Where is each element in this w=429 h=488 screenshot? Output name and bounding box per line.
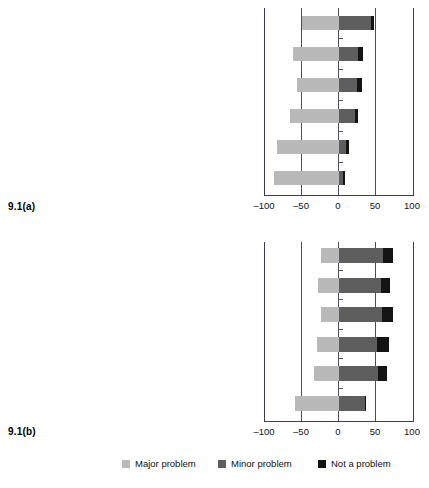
bar-segment-major <box>302 16 339 30</box>
square-swatch-icon <box>218 460 226 468</box>
bar-segment-major <box>318 278 339 293</box>
bar-segment-minor <box>339 248 383 263</box>
chart-panel-a: 9.1(a) –100–50050100 Insufficient sales/… <box>0 0 429 222</box>
category-tick-mark <box>338 131 343 132</box>
plot-area-b <box>264 242 414 421</box>
gridline-plus50-b <box>375 242 376 421</box>
x-tick-label: 50 <box>370 426 381 437</box>
x-tick-label: –50 <box>293 426 309 437</box>
bar-segment-none <box>357 78 362 92</box>
bar-row <box>265 140 413 154</box>
bar-row <box>265 307 413 322</box>
bar-segment-minor <box>339 47 358 61</box>
category-tick-mark <box>338 100 343 101</box>
category-tick-mark <box>338 329 343 330</box>
legend-label-none: Not a problem <box>331 458 391 469</box>
category-tick-mark <box>338 270 343 271</box>
bar-segment-minor <box>339 366 378 381</box>
bar-row <box>265 16 413 30</box>
bar-segment-none <box>355 109 359 123</box>
gridline-zero-a <box>338 8 339 195</box>
bar-segment-none <box>346 140 349 154</box>
bar-row <box>265 278 413 293</box>
x-tick-label: 100 <box>404 426 420 437</box>
bar-segment-minor <box>339 278 381 293</box>
bar-segment-major <box>274 171 339 185</box>
category-tick-mark <box>338 38 343 39</box>
bar-row <box>265 78 413 92</box>
bar-segment-minor <box>339 16 371 30</box>
bar-row <box>265 366 413 381</box>
category-tick-mark <box>338 162 343 163</box>
x-axis-line-a <box>264 195 414 196</box>
x-tick-label: 50 <box>370 200 381 211</box>
bar-segment-major <box>297 78 339 92</box>
bar-segment-none <box>365 396 366 411</box>
bar-segment-none <box>378 366 387 381</box>
bar-row <box>265 337 413 352</box>
bar-row <box>265 248 413 263</box>
x-tick-label: 0 <box>335 426 340 437</box>
gridline-minus50-a <box>301 8 302 195</box>
bar-segment-major <box>277 140 339 154</box>
panel-b-label: 9.1(b) <box>8 426 36 437</box>
bar-row <box>265 171 413 185</box>
category-tick-mark <box>338 358 343 359</box>
category-tick-mark <box>338 388 343 389</box>
bar-segment-major <box>317 337 339 352</box>
bar-segment-minor <box>339 109 355 123</box>
bar-row <box>265 109 413 123</box>
bar-segment-none <box>381 278 390 293</box>
square-swatch-icon <box>122 460 130 468</box>
bar-segment-major <box>321 307 340 322</box>
legend-label-minor: Minor problem <box>231 458 292 469</box>
bar-segment-major <box>290 109 339 123</box>
legend-item-major-problem: Major problem <box>122 458 196 469</box>
chart-legend: Major problem Minor problem Not a proble… <box>0 458 429 474</box>
bar-segment-minor <box>339 396 365 411</box>
gridline-plus50-a <box>375 8 376 195</box>
legend-item-not-a-problem: Not a problem <box>318 458 391 469</box>
x-tick-labels-b: –100–50050100 <box>264 426 412 440</box>
bar-row <box>265 47 413 61</box>
bar-segment-minor <box>339 78 357 92</box>
category-tick-mark <box>338 69 343 70</box>
bar-segment-none <box>383 248 393 263</box>
category-tick-mark <box>338 299 343 300</box>
bar-segment-major <box>295 396 339 411</box>
bar-segment-none <box>377 337 389 352</box>
gridline-minus50-b <box>301 242 302 421</box>
bar-row <box>265 396 413 411</box>
x-tick-label: –50 <box>293 200 309 211</box>
figure-9-1: 9.1(a) –100–50050100 Insufficient sales/… <box>0 0 429 488</box>
bar-segment-none <box>343 171 344 185</box>
legend-label-major: Major problem <box>135 458 196 469</box>
x-axis-line-b <box>264 421 414 422</box>
bar-segment-none <box>358 47 363 61</box>
x-tick-label: 0 <box>335 200 340 211</box>
legend-item-minor-problem: Minor problem <box>218 458 292 469</box>
bar-segment-major <box>321 248 339 263</box>
bar-segment-none <box>382 307 393 322</box>
x-tick-label: –100 <box>253 426 274 437</box>
square-swatch-icon <box>318 460 326 468</box>
bar-segment-none <box>371 16 374 30</box>
x-tick-label: –100 <box>253 200 274 211</box>
bar-segment-minor <box>339 140 346 154</box>
panel-a-label: 9.1(a) <box>8 201 35 212</box>
bar-segment-major <box>293 47 339 61</box>
bar-segment-major <box>314 366 339 381</box>
bar-segment-minor <box>339 337 377 352</box>
chart-panel-b: 9.1(b) –100–50050100 Low profits/profita… <box>0 236 429 446</box>
bar-segment-minor <box>339 307 382 322</box>
x-tick-label: 100 <box>404 200 420 211</box>
x-tick-labels-a: –100–50050100 <box>264 200 412 214</box>
plot-area-a <box>264 8 414 195</box>
